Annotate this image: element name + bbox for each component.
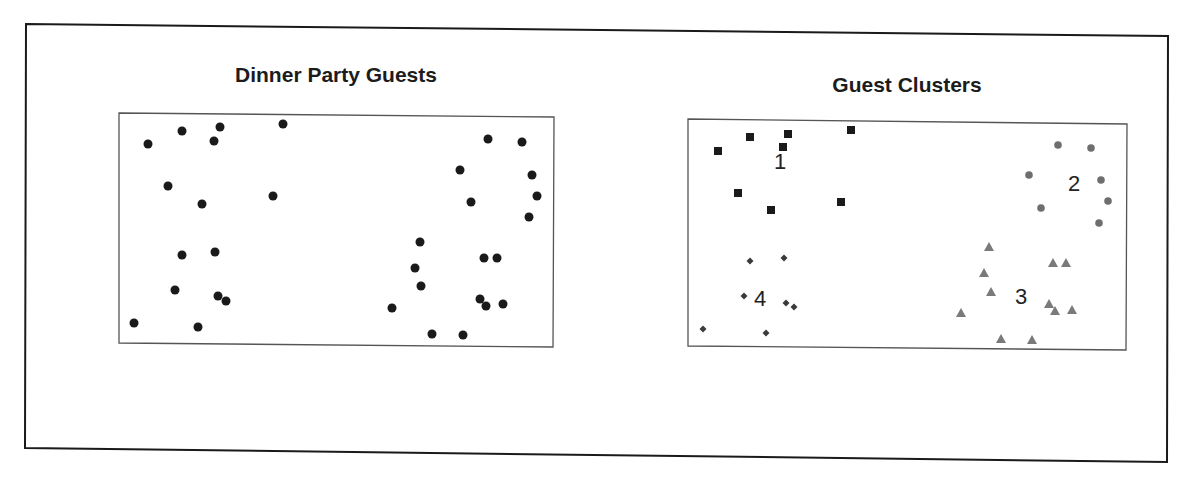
cluster-1-point — [714, 147, 722, 155]
guest-point — [144, 140, 153, 149]
right-chart-title: Guest Clusters — [832, 73, 981, 96]
cluster-1-point — [847, 126, 855, 134]
guest-point — [456, 166, 465, 175]
guest-point — [171, 286, 180, 295]
cluster-label-2: 2 — [1068, 171, 1080, 196]
cluster-2-point — [1095, 219, 1103, 227]
guest-point — [194, 323, 203, 332]
guest-point — [411, 264, 420, 273]
guest-point — [484, 135, 493, 144]
cluster-2-point — [1104, 197, 1112, 205]
guest-point — [178, 127, 187, 136]
guest-point — [178, 251, 187, 260]
right-plot-area — [688, 119, 1127, 350]
cluster-1-point — [746, 133, 754, 141]
guest-point — [476, 295, 485, 304]
cluster-1-point — [784, 130, 792, 138]
guest-point — [164, 182, 173, 191]
cluster-1-point — [837, 198, 845, 206]
guest-point — [279, 120, 288, 129]
cluster-label-4: 4 — [754, 286, 766, 311]
guest-point — [525, 213, 534, 222]
cluster-label-1: 1 — [774, 149, 786, 174]
cluster-1-point — [767, 206, 775, 214]
right-panel: Guest Clusters 1234 — [688, 73, 1127, 350]
guest-point — [528, 171, 537, 180]
guest-point — [518, 138, 527, 147]
figure-canvas: Dinner Party Guests Guest Clusters 1234 — [0, 0, 1190, 487]
guest-point — [222, 297, 231, 306]
guest-point — [482, 302, 491, 311]
guest-point — [417, 282, 426, 291]
cluster-2-point — [1025, 171, 1033, 179]
cluster-2-point — [1037, 204, 1045, 212]
cluster-label-3: 3 — [1015, 284, 1027, 309]
guest-point — [480, 254, 489, 263]
guest-point — [198, 200, 207, 209]
guest-point — [211, 248, 220, 257]
guest-point — [428, 330, 437, 339]
cluster-2-point — [1097, 176, 1105, 184]
guest-point — [416, 238, 425, 247]
guest-point — [388, 304, 397, 313]
cluster-2-point — [1087, 144, 1095, 152]
guest-point — [459, 331, 468, 340]
cluster-1-point — [734, 189, 742, 197]
guest-point — [533, 192, 542, 201]
left-chart-title: Dinner Party Guests — [235, 63, 437, 86]
guest-point — [493, 254, 502, 263]
guest-point — [130, 319, 139, 328]
guest-point — [214, 292, 223, 301]
guest-point — [216, 123, 225, 132]
left-plot-area — [119, 113, 554, 347]
guest-point — [210, 137, 219, 146]
cluster-2-point — [1054, 141, 1062, 149]
guest-point — [269, 192, 278, 201]
guest-point — [467, 198, 476, 207]
guest-point — [499, 300, 508, 309]
left-panel: Dinner Party Guests — [119, 63, 554, 347]
